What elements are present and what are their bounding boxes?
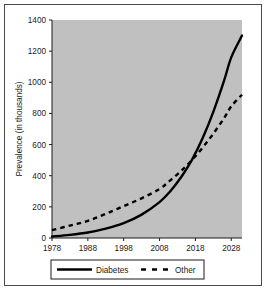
y-tick-label: 400 <box>32 172 46 181</box>
y-axis-tick-labels: 0200400600800100012001400 <box>28 16 47 243</box>
y-tick-label: 1400 <box>28 16 47 25</box>
chart-figure: 0200400600800100012001400 19781988199820… <box>0 0 266 290</box>
line-chart: 0200400600800100012001400 19781988199820… <box>0 0 266 290</box>
y-tick-label: 800 <box>32 109 46 118</box>
y-tick-label: 1200 <box>28 47 47 56</box>
y-axis-title: Prevalence (in thousands) <box>15 81 24 176</box>
x-tick-label: 2018 <box>186 244 205 253</box>
x-axis-tick-labels: 197819881998200820182028 <box>43 244 241 253</box>
legend-label-diabetes: Diabetes <box>96 266 128 275</box>
x-tick-label: 1978 <box>43 244 62 253</box>
y-tick-label: 1000 <box>28 78 47 87</box>
y-tick-label: 200 <box>32 203 46 212</box>
y-tick-label: 0 <box>41 234 46 243</box>
x-tick-label: 1998 <box>115 244 134 253</box>
legend-label-other: Other <box>175 266 196 275</box>
x-tick-label: 2008 <box>150 244 169 253</box>
x-tick-label: 2028 <box>222 244 241 253</box>
plot-area-background <box>52 20 242 238</box>
x-tick-label: 1988 <box>79 244 98 253</box>
y-tick-label: 600 <box>32 141 46 150</box>
